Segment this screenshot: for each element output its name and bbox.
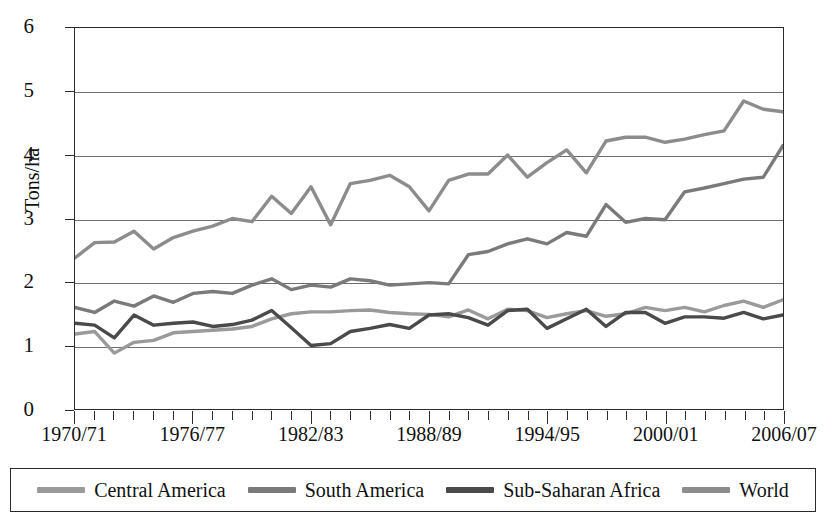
y-tick-mark <box>65 410 74 411</box>
x-tick-mark <box>646 411 647 420</box>
y-tick-label: 0 <box>24 399 35 420</box>
x-tick-mark <box>212 411 213 420</box>
x-tick-mark <box>587 411 588 420</box>
x-tick-mark <box>764 411 765 420</box>
x-tick-mark <box>725 411 726 420</box>
y-tick-mark <box>65 155 74 156</box>
series-lines <box>75 28 783 409</box>
x-tick-mark <box>113 411 114 420</box>
y-tick-mark <box>65 282 74 283</box>
x-tick-label: 1988/89 <box>396 424 462 444</box>
legend-label: Sub-Saharan Africa <box>503 480 660 500</box>
x-tick-mark <box>252 411 253 420</box>
legend-swatch-icon <box>248 487 296 493</box>
x-tick-mark <box>330 411 331 420</box>
series-line <box>75 101 783 258</box>
x-tick-mark <box>271 411 272 420</box>
y-tick-mark <box>65 219 74 220</box>
legend-label: South America <box>305 480 424 500</box>
x-tick-mark <box>449 411 450 420</box>
x-tick-label: 1970/71 <box>41 424 107 444</box>
x-tick-mark <box>528 411 529 420</box>
y-tick-mark <box>65 346 74 347</box>
x-tick-mark <box>607 411 608 420</box>
x-tick-mark <box>232 411 233 420</box>
y-tick-label: 5 <box>24 80 35 101</box>
y-tick-mark <box>65 91 74 92</box>
x-tick-mark <box>488 411 489 420</box>
y-tick-label: 4 <box>24 144 35 165</box>
legend-item[interactable]: World <box>671 480 800 500</box>
x-tick-label: 2006/07 <box>751 424 817 444</box>
x-tick-mark <box>390 411 391 420</box>
y-tick-label: 6 <box>24 16 35 37</box>
legend-swatch-icon <box>37 487 85 493</box>
x-tick-mark <box>705 411 706 420</box>
x-tick-label: 1994/95 <box>515 424 581 444</box>
y-axis-title: Tons/ha <box>21 100 44 260</box>
y-tick-label: 2 <box>24 271 35 292</box>
x-tick-mark <box>173 411 174 420</box>
x-tick-mark <box>133 411 134 420</box>
x-tick-mark <box>350 411 351 420</box>
legend-swatch-icon <box>682 487 730 493</box>
x-tick-mark <box>370 411 371 420</box>
chart-container: Tons/ha 0123456 1970/711976/771982/83198… <box>0 0 826 526</box>
x-tick-label: 2000/01 <box>633 424 699 444</box>
x-tick-mark <box>291 411 292 420</box>
x-tick-mark <box>567 411 568 420</box>
legend-item[interactable]: South America <box>237 480 435 500</box>
legend-item[interactable]: Sub-Saharan Africa <box>435 480 671 500</box>
y-tick-mark <box>65 27 74 28</box>
x-tick-mark <box>94 411 95 420</box>
x-tick-mark <box>468 411 469 420</box>
legend-label: Central America <box>94 480 226 500</box>
chart-legend: Central AmericaSouth AmericaSub-Saharan … <box>10 468 816 512</box>
x-tick-mark <box>409 411 410 420</box>
x-tick-mark <box>745 411 746 420</box>
x-tick-label: 1982/83 <box>278 424 344 444</box>
x-tick-mark <box>685 411 686 420</box>
y-tick-label: 3 <box>24 208 35 229</box>
series-line <box>75 300 783 353</box>
legend-label: World <box>739 480 789 500</box>
x-tick-mark <box>508 411 509 420</box>
x-tick-mark <box>153 411 154 420</box>
x-tick-label: 1976/77 <box>160 424 226 444</box>
legend-swatch-icon <box>446 487 494 493</box>
series-line <box>75 309 783 345</box>
x-tick-mark <box>626 411 627 420</box>
legend-item[interactable]: Central America <box>26 480 237 500</box>
y-tick-label: 1 <box>24 335 35 356</box>
series-line <box>75 145 783 312</box>
plot-area <box>74 27 784 410</box>
